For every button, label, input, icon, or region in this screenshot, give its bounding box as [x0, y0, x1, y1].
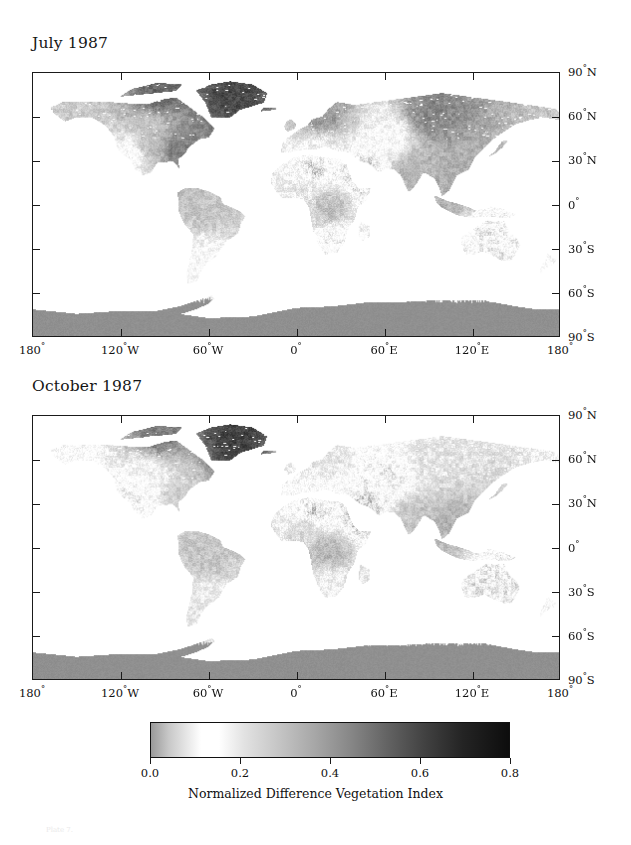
- lon-tick-top: [209, 73, 210, 80]
- lon-tick-top: [473, 73, 474, 80]
- lat-tick-left: [33, 460, 40, 461]
- lon-label-120W: 120°W: [101, 686, 139, 700]
- lon-label-60W: 60°W: [193, 686, 224, 700]
- lon-tick-bottom: [121, 672, 122, 679]
- lon-label-180: 180°: [19, 686, 45, 700]
- panel-title-july: July 1987: [32, 34, 108, 52]
- lat-label-60S: 60°S: [568, 629, 595, 643]
- lon-label-120E: 120°E: [455, 686, 490, 700]
- lat-label-30N: 30°N: [568, 496, 597, 510]
- lon-label-180: 180°: [547, 343, 573, 357]
- lon-tick-top: [297, 416, 298, 423]
- lon-tick-top: [385, 73, 386, 80]
- colorbar-tick-0.6: [420, 758, 421, 764]
- colorbar-tick-0.4: [330, 758, 331, 764]
- lon-label-0: 0°: [290, 343, 301, 357]
- lat-tick-right: [552, 592, 559, 593]
- lon-tick-bottom: [473, 672, 474, 679]
- lon-label-180: 180°: [547, 686, 573, 700]
- map-panel-july: [32, 72, 560, 337]
- lon-tick-top: [297, 73, 298, 80]
- ndvi-figure: July 1987 October 1987 0.00.20.40.60.8 N…: [0, 0, 631, 845]
- lat-tick-right: [552, 205, 559, 206]
- lon-tick-bottom: [209, 672, 210, 679]
- lat-tick-left: [33, 293, 40, 294]
- lon-tick-top: [121, 73, 122, 80]
- colorbar-tick-0.2: [240, 758, 241, 764]
- lon-label-120W: 120°W: [101, 343, 139, 357]
- lat-label-90N: 90°N: [568, 65, 597, 79]
- lat-tick-right: [552, 117, 559, 118]
- colorbar: 0.00.20.40.60.8: [150, 722, 510, 758]
- lat-tick-left: [33, 548, 40, 549]
- lat-label-30S: 30°S: [568, 585, 595, 599]
- lon-label-180: 180°: [19, 343, 45, 357]
- colorbar-label-0.6: 0.6: [411, 766, 429, 780]
- lat-tick-right: [552, 504, 559, 505]
- map-image-october: [33, 416, 559, 679]
- lat-tick-right: [552, 460, 559, 461]
- lat-label-0: 0°: [568, 198, 579, 212]
- lat-label-60S: 60°S: [568, 286, 595, 300]
- lat-label-60N: 60°N: [568, 452, 597, 466]
- lat-tick-right: [552, 249, 559, 250]
- lat-tick-left: [33, 205, 40, 206]
- lon-tick-bottom: [121, 329, 122, 336]
- colorbar-label-0.2: 0.2: [231, 766, 249, 780]
- lat-tick-left: [33, 504, 40, 505]
- colorbar-tick-0.8: [510, 758, 511, 764]
- lat-label-0: 0°: [568, 541, 579, 555]
- lat-tick-right: [552, 161, 559, 162]
- lon-tick-top: [385, 416, 386, 423]
- map-image-july: [33, 73, 559, 336]
- lon-label-0: 0°: [290, 686, 301, 700]
- lon-label-60E: 60°E: [370, 686, 397, 700]
- panel-title-october: October 1987: [32, 377, 142, 395]
- colorbar-caption: Normalized Difference Vegetation Index: [0, 786, 631, 801]
- map-panel-october: [32, 415, 560, 680]
- lat-label-30N: 30°N: [568, 153, 597, 167]
- lat-tick-left: [33, 636, 40, 637]
- lat-label-90N: 90°N: [568, 408, 597, 422]
- lat-tick-left: [33, 249, 40, 250]
- lon-tick-bottom: [297, 672, 298, 679]
- lat-tick-left: [33, 117, 40, 118]
- lat-tick-left: [33, 592, 40, 593]
- colorbar-tick-0.0: [150, 758, 151, 764]
- lat-tick-left: [33, 161, 40, 162]
- lon-tick-top: [121, 416, 122, 423]
- lon-tick-bottom: [385, 329, 386, 336]
- colorbar-label-0.0: 0.0: [141, 766, 159, 780]
- lon-tick-bottom: [385, 672, 386, 679]
- lon-tick-bottom: [209, 329, 210, 336]
- colorbar-label-0.8: 0.8: [501, 766, 519, 780]
- colorbar-gradient: [150, 722, 510, 758]
- lon-tick-top: [209, 416, 210, 423]
- lon-tick-bottom: [473, 329, 474, 336]
- lat-label-60N: 60°N: [568, 109, 597, 123]
- lon-label-60E: 60°E: [370, 343, 397, 357]
- lat-label-30S: 30°S: [568, 242, 595, 256]
- lat-tick-right: [552, 636, 559, 637]
- figure-caption-faint: Plate 7.: [46, 826, 73, 834]
- lon-tick-bottom: [297, 329, 298, 336]
- lat-tick-right: [552, 293, 559, 294]
- lon-tick-top: [473, 416, 474, 423]
- colorbar-label-0.4: 0.4: [321, 766, 339, 780]
- lon-label-120E: 120°E: [455, 343, 490, 357]
- lat-tick-right: [552, 548, 559, 549]
- lon-label-60W: 60°W: [193, 343, 224, 357]
